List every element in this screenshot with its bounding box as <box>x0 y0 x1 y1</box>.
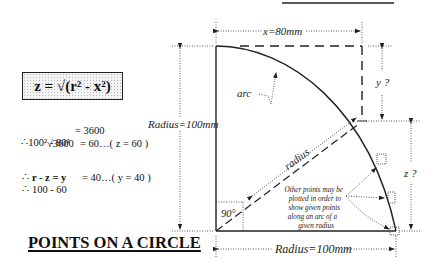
radius-vertical-dimension <box>172 46 214 231</box>
radius-label: radius <box>282 146 312 173</box>
y-dimension-label: y ? <box>375 76 390 88</box>
note-leaders <box>346 168 389 229</box>
note-line-2: plotted in order to <box>288 195 342 203</box>
note-line-1: Other points may be <box>285 186 344 194</box>
z-dimension-label: z ? <box>403 167 417 179</box>
radius-vertical-label: Radius=100mm <box>147 118 218 130</box>
note-text: Other points may be plotted in order to … <box>285 186 344 230</box>
plotted-point-markers <box>377 154 399 235</box>
y-dimension <box>366 46 420 121</box>
x-dimension-label: x=80mm <box>262 25 302 37</box>
radius-horizontal-label: Radius=100mm <box>274 242 352 256</box>
arc-label: arc <box>237 87 251 99</box>
right-angle-label: 90° <box>221 208 237 219</box>
note-line-3: show given points <box>288 204 340 212</box>
projection-lines <box>240 46 362 121</box>
note-line-4: along an arc of a <box>288 213 338 221</box>
note-line-5: given radius <box>298 222 334 230</box>
arc-leader <box>259 73 276 104</box>
quarter-circle-diagram: radius 90° x=80mm y ? z ? Radius=100mm <box>0 0 434 262</box>
